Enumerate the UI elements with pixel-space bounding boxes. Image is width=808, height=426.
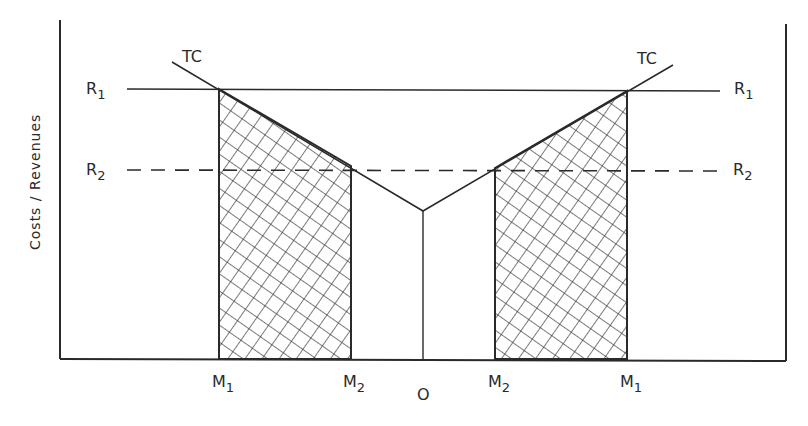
tc-label-right: TC	[636, 49, 657, 68]
tc-label-left: TC	[181, 47, 202, 66]
m1-label-right: M1	[620, 372, 642, 395]
m1-label-left: M1	[212, 372, 234, 395]
r2-line	[127, 170, 720, 171]
r2-label-left: R2	[86, 160, 105, 183]
m2-label-left: M2	[343, 372, 365, 395]
r1-label-left: R1	[86, 79, 105, 102]
origin-label: O	[417, 385, 430, 404]
x-axis	[60, 359, 786, 361]
y-axis-label: Costs / Revenues	[27, 114, 43, 250]
r2-label-right: R2	[733, 160, 752, 183]
cost-revenue-diagram: TC TC R1 R2 R1 R2 M1 M2 O M2 M1 Costs / …	[0, 0, 808, 426]
m2-label-right: M2	[488, 372, 510, 395]
r1-label-right: R1	[734, 79, 753, 102]
